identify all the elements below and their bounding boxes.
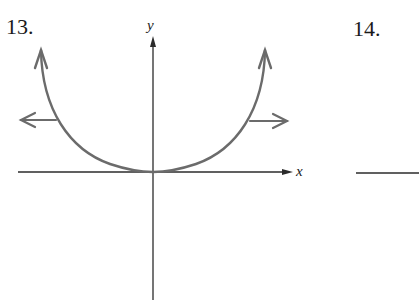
left-horizontal-arrow [21, 113, 56, 127]
y-axis [150, 36, 156, 300]
x-axis-arrowhead-icon [282, 169, 293, 175]
y-axis-arrowhead-icon [150, 36, 156, 47]
right-horizontal-arrow [250, 114, 287, 128]
graph-13 [0, 0, 419, 300]
